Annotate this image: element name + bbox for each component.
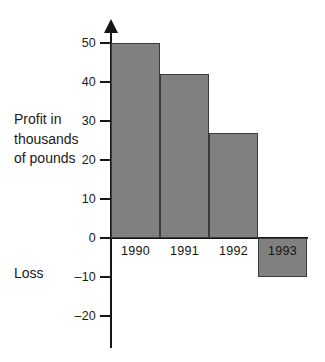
y-axis-tick [100, 276, 111, 278]
y-axis-tick-label-text: 0 [56, 231, 96, 245]
category-label-1990: 1990 [111, 243, 160, 259]
y-axis-tick-label: 10 [56, 192, 96, 206]
y-axis-tick-label-text: 10 [56, 192, 96, 206]
y-axis-tick [100, 81, 111, 83]
y-axis-tick-label: 0 [56, 231, 96, 245]
y-axis-tick [100, 42, 111, 44]
y-axis-tick [100, 315, 111, 317]
y-axis-title: Profit in thousands of pounds [14, 110, 79, 169]
bar-chart-figure: 50403020100–10–20 1990199119921993 Profi… [0, 0, 325, 362]
y-axis-title-line3: of pounds [14, 149, 79, 169]
category-label-1992: 1992 [209, 243, 258, 259]
category-label-1993: 1993 [258, 243, 307, 259]
y-axis-tick-label-text: 50 [56, 36, 96, 50]
y-axis-tick [100, 120, 111, 122]
bar-1992 [209, 133, 258, 238]
loss-label: Loss [14, 264, 44, 284]
y-axis-tick [100, 237, 111, 239]
y-axis-tick-label: –20 [56, 309, 96, 323]
y-axis-title-line2: thousands [14, 130, 79, 150]
y-axis-title-line1: Profit in [14, 110, 79, 130]
y-axis-tick-label-text: 40 [56, 75, 96, 89]
y-axis-tick-label: –10 [56, 270, 96, 284]
y-axis-tick-label-text: –20 [56, 309, 96, 323]
bar-1990 [111, 43, 160, 238]
y-axis-tick [100, 159, 111, 161]
category-label-1991: 1991 [160, 243, 209, 259]
y-axis-tick-label: 50 [56, 36, 96, 50]
y-axis-arrow-icon [104, 19, 118, 33]
y-axis-tick [100, 198, 111, 200]
y-axis-tick-label: 40 [56, 75, 96, 89]
y-axis-tick-label-text: –10 [56, 270, 96, 284]
bar-1991 [160, 74, 209, 238]
